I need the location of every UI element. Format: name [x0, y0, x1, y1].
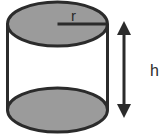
- height-arrow: [117, 21, 131, 118]
- cylinder-diagram-canvas: r h: [0, 0, 165, 139]
- height-arrow-head-down: [117, 104, 131, 118]
- height-label: h: [150, 63, 159, 79]
- cylinder-illustration: [0, 0, 165, 139]
- cylinder-bottom-face: [8, 88, 108, 132]
- height-arrow-head-up: [117, 21, 131, 35]
- radius-label: r: [71, 8, 76, 23]
